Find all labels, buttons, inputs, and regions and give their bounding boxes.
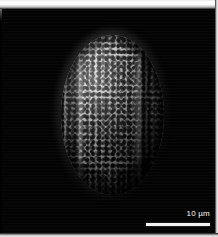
plate-border-top xyxy=(0,0,218,9)
plate-border-right xyxy=(215,0,218,237)
plate-border-bottom xyxy=(0,233,218,237)
scale-bar-line xyxy=(146,223,210,226)
scale-bar: 10 µm xyxy=(146,209,210,226)
pollen-grain xyxy=(61,35,164,195)
plate-border-left xyxy=(0,0,2,237)
micrograph-field: 10 µm xyxy=(0,9,216,233)
reticulate-texture-fine-layer xyxy=(61,35,164,195)
pollen-grain-body xyxy=(61,35,164,195)
scale-bar-label: 10 µm xyxy=(146,209,210,218)
sem-micrograph-screenshot: 10 µm xyxy=(0,0,218,237)
